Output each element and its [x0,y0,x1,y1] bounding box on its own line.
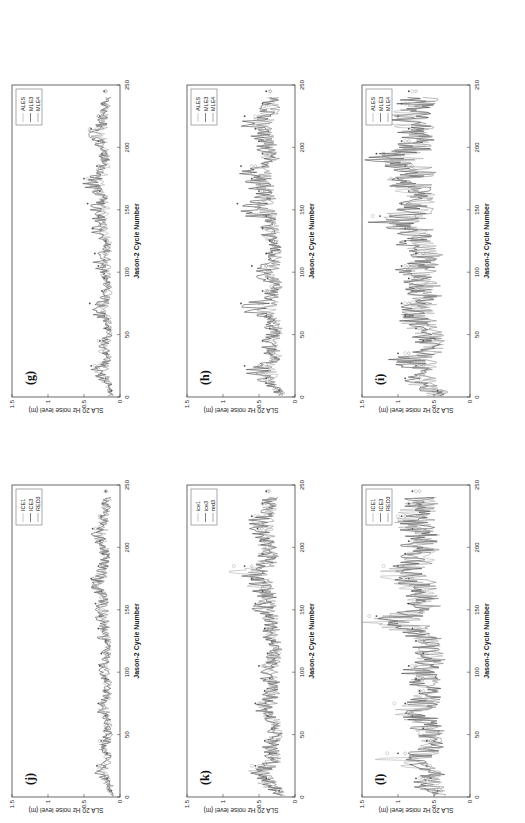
x-tick-label: 50 [474,331,480,338]
x-tick-label: 150 [124,604,130,615]
x-tick-label: 50 [299,731,305,738]
x-tick-label: 250 [474,479,480,490]
y-tick-label: 0 [292,799,298,803]
y-tick-label: 1.5 [184,799,190,808]
y-tick-label: 0 [467,399,473,403]
legend-entry: red3 [210,500,216,511]
x-tick-label: 250 [124,479,130,490]
y-axis-label: SLA 20 Hz noise level (m) [29,406,104,414]
y-tick-label: 0.5 [81,799,87,808]
chart-panel-l: 05010015020025000.511.5Jason-2 Cycle Num… [350,420,525,820]
panel-label: (i) [373,374,387,385]
x-tick-label: 0 [474,395,480,399]
chart-panel-g: 05010015020025000.511.5Jason-2 Cycle Num… [0,20,175,420]
plot-frame [187,485,295,797]
legend-entry: ICE1 [370,499,376,511]
y-tick-label: 0.5 [256,799,262,808]
x-tick-label: 200 [474,142,480,153]
x-tick-label: 200 [299,142,305,153]
y-tick-label: 0 [467,799,473,803]
x-tick-label: 50 [299,331,305,338]
y-tick-label: 0 [117,399,123,403]
x-tick-label: 100 [474,667,480,678]
x-tick-label: 0 [299,395,305,399]
legend-entry: MLE3 [378,97,384,111]
y-tick-label: 1 [45,399,51,403]
legend-entry: ALES [20,97,26,111]
legend-entry: ICE3 [28,499,34,511]
panel-label: (h) [198,370,212,385]
x-tick-label: 250 [299,479,305,490]
x-tick-label: 200 [299,542,305,553]
x-tick-label: 150 [299,204,305,215]
y-tick-label: 0.5 [81,399,87,408]
x-tick-label: 250 [474,79,480,90]
x-axis-label: Jason-2 Cycle Number [483,603,491,679]
x-axis-label: Jason-2 Cycle Number [308,203,316,279]
chart-panel-h: 05010015020025000.511.5Jason-2 Cycle Num… [175,20,350,420]
legend-entry: ice1 [195,501,201,511]
y-tick-label: 1 [220,799,226,803]
legend-entry: ALES [195,97,201,111]
legend-entry: MLE3 [203,97,209,111]
legend-entry: RED3 [385,496,391,511]
x-tick-label: 100 [124,667,130,678]
x-tick-label: 100 [124,267,130,278]
x-axis-label: Jason-2 Cycle Number [308,603,316,679]
x-axis-label: Jason-2 Cycle Number [133,203,141,279]
chart-panel-j: 05010015020025000.511.5Jason-2 Cycle Num… [0,420,175,820]
y-axis-label: SLA 20 Hz noise level (m) [204,406,279,414]
x-axis-label: Jason-2 Cycle Number [483,203,491,279]
x-tick-label: 50 [474,731,480,738]
legend-entry: MLE3 [28,97,34,111]
x-axis-label: Jason-2 Cycle Number [133,603,141,679]
y-tick-label: 0.5 [256,399,262,408]
legend-entry: MLE4 [35,97,41,111]
x-tick-label: 0 [124,795,130,799]
y-tick-label: 1.5 [359,399,365,408]
y-tick-label: 1.5 [9,799,15,808]
chart-panel-i: 05010015020025000.511.5Jason-2 Cycle Num… [350,20,525,420]
panel-label: (g) [23,371,37,385]
y-axis-label: SLA 20 Hz noise level (m) [379,806,454,814]
y-tick-label: 1 [395,799,401,803]
legend-entry: MLE4 [385,97,391,111]
x-tick-label: 150 [299,604,305,615]
x-tick-label: 200 [124,542,130,553]
y-axis-label: SLA 20 Hz noise level (m) [379,406,454,414]
legend-entry: ice3 [203,501,209,511]
x-tick-label: 200 [474,542,480,553]
y-tick-label: 1.5 [359,799,365,808]
x-tick-label: 0 [299,795,305,799]
x-tick-label: 0 [124,395,130,399]
y-tick-label: 0 [292,399,298,403]
panel-label: (j) [23,773,37,785]
y-tick-label: 1.5 [184,399,190,408]
x-tick-label: 100 [299,667,305,678]
y-axis-label: SLA 20 Hz noise level (m) [204,806,279,814]
panel-label: (k) [198,770,212,785]
y-tick-label: 1 [45,799,51,803]
legend-entry: MLE4 [210,97,216,111]
y-tick-label: 1 [220,399,226,403]
y-tick-label: 0.5 [431,399,437,408]
x-tick-label: 50 [124,731,130,738]
x-tick-label: 150 [474,204,480,215]
x-tick-label: 250 [124,79,130,90]
x-tick-label: 200 [124,142,130,153]
chart-panel-k: 05010015020025000.511.5Jason-2 Cycle Num… [175,420,350,820]
y-tick-label: 1 [395,399,401,403]
y-tick-label: 0.5 [431,799,437,808]
panel-label: (l) [373,774,387,785]
x-tick-label: 100 [474,267,480,278]
x-tick-label: 150 [474,604,480,615]
x-tick-label: 0 [474,795,480,799]
legend-entry: RED3 [35,496,41,511]
y-tick-label: 0 [117,799,123,803]
x-tick-label: 100 [299,267,305,278]
y-axis-label: SLA 20 Hz noise level (m) [29,806,104,814]
legend-entry: ALES [370,97,376,111]
x-tick-label: 150 [124,204,130,215]
x-tick-label: 250 [299,79,305,90]
legend-entry: ICE3 [378,499,384,511]
